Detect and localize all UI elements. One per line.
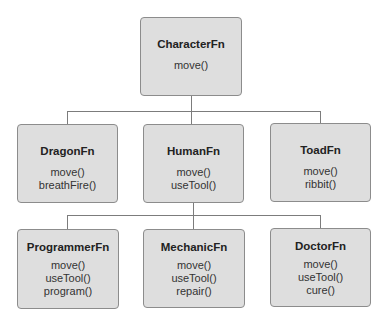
method: ribbit() bbox=[305, 178, 336, 191]
class-name: HumanFn bbox=[167, 145, 220, 157]
class-name: CharacterFn bbox=[157, 38, 225, 50]
class-name: MechanicFn bbox=[161, 241, 227, 253]
method: move() bbox=[176, 166, 210, 179]
connector-human-down bbox=[193, 202, 194, 216]
connector-root-down bbox=[191, 95, 192, 112]
class-name: ProgrammerFn bbox=[27, 241, 109, 253]
connector-to-programmer bbox=[67, 215, 68, 229]
method: move() bbox=[50, 166, 84, 179]
method: move() bbox=[177, 259, 211, 272]
connector-level2-bar bbox=[67, 215, 321, 216]
class-box-mechanicfn: MechanicFn move() useTool() repair() bbox=[143, 229, 245, 308]
method: useTool() bbox=[171, 179, 216, 192]
connector-to-human bbox=[191, 111, 192, 124]
method: repair() bbox=[176, 285, 211, 298]
connector-to-doctor bbox=[320, 215, 321, 229]
class-box-doctorfn: DoctorFn move() useTool() cure() bbox=[270, 228, 371, 307]
method: move() bbox=[51, 259, 85, 272]
class-box-programmerfn: ProgrammerFn move() useTool() program() bbox=[17, 229, 119, 309]
class-box-dragonfn: DragonFn move() breathFire() bbox=[17, 124, 118, 203]
class-box-humanfn: HumanFn move() useTool() bbox=[143, 124, 244, 203]
method: program() bbox=[44, 285, 92, 298]
class-box-toadfn: ToadFn move() ribbit() bbox=[270, 123, 371, 202]
method: useTool() bbox=[45, 272, 90, 285]
connector-level1-bar bbox=[67, 111, 321, 112]
class-name: ToadFn bbox=[300, 144, 341, 156]
connector-to-mechanic bbox=[193, 215, 194, 229]
method: breathFire() bbox=[39, 179, 96, 192]
method: useTool() bbox=[298, 271, 343, 284]
connector-to-dragon bbox=[67, 111, 68, 124]
class-box-characterfn: CharacterFn move() bbox=[140, 17, 242, 96]
method: useTool() bbox=[171, 272, 216, 285]
class-name: DoctorFn bbox=[295, 240, 346, 252]
class-name: DragonFn bbox=[40, 145, 94, 157]
method: cure() bbox=[306, 284, 335, 297]
method: move() bbox=[303, 258, 337, 271]
method: move() bbox=[303, 165, 337, 178]
method: move() bbox=[174, 59, 208, 72]
